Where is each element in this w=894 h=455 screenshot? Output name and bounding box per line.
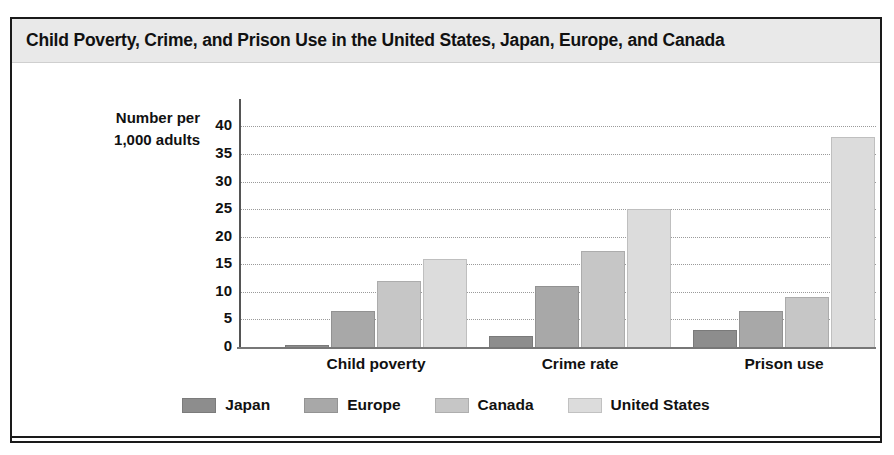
legend-label: United States bbox=[611, 396, 710, 414]
bar bbox=[627, 209, 671, 347]
y-axis-line bbox=[239, 99, 241, 347]
legend-label: Japan bbox=[225, 396, 270, 414]
y-axis-tick-label: 30 bbox=[215, 173, 232, 188]
gridline bbox=[241, 126, 876, 127]
legend: JapanEuropeCanadaUnited States bbox=[12, 396, 880, 414]
category-label: Prison use bbox=[744, 355, 823, 373]
bar bbox=[285, 345, 329, 347]
bar bbox=[377, 281, 421, 347]
bar bbox=[693, 330, 737, 347]
legend-swatch bbox=[182, 398, 216, 413]
bar bbox=[785, 297, 829, 347]
bar bbox=[581, 251, 625, 348]
y-axis-tick-label: 35 bbox=[215, 145, 232, 160]
y-axis-tick-label: 25 bbox=[215, 200, 232, 215]
legend-item[interactable]: Canada bbox=[435, 396, 534, 414]
y-axis-tick-label: 20 bbox=[215, 228, 232, 243]
chart-title: Child Poverty, Crime, and Prison Use in … bbox=[26, 30, 725, 51]
y-axis-tick-label: 40 bbox=[215, 118, 232, 133]
bar bbox=[489, 336, 533, 347]
category-label: Crime rate bbox=[542, 355, 619, 373]
plot-area: 4035302520151050 Child povertyCrime rate… bbox=[239, 99, 876, 347]
gridline bbox=[241, 209, 876, 210]
bar bbox=[831, 137, 875, 347]
y-axis-tick-label: 0 bbox=[224, 338, 232, 353]
legend-swatch bbox=[304, 398, 338, 413]
figure-frame: Child Poverty, Crime, and Prison Use in … bbox=[10, 17, 882, 443]
gridline bbox=[241, 264, 876, 265]
legend-item[interactable]: Japan bbox=[182, 396, 270, 414]
bottom-divider bbox=[12, 436, 880, 438]
bar bbox=[739, 311, 783, 347]
title-band: Child Poverty, Crime, and Prison Use in … bbox=[12, 19, 880, 63]
x-axis-line bbox=[237, 347, 876, 349]
legend-label: Canada bbox=[478, 396, 534, 414]
gridline bbox=[241, 182, 876, 183]
y-axis-title: Number per 1,000 adults bbox=[50, 107, 200, 151]
y-axis-title-line1: Number per bbox=[50, 107, 200, 129]
y-axis-title-line2: 1,000 adults bbox=[50, 129, 200, 151]
y-axis-tick-label: 5 bbox=[224, 311, 232, 326]
legend-swatch bbox=[568, 398, 602, 413]
legend-item[interactable]: United States bbox=[568, 396, 710, 414]
y-axis-tick-label: 10 bbox=[215, 283, 232, 298]
y-axis-tick-label: 15 bbox=[215, 256, 232, 271]
gridline bbox=[241, 154, 876, 155]
bar bbox=[535, 286, 579, 347]
bar bbox=[423, 259, 467, 347]
bar bbox=[331, 311, 375, 347]
gridline bbox=[241, 237, 876, 238]
legend-item[interactable]: Europe bbox=[304, 396, 400, 414]
category-label: Child poverty bbox=[326, 355, 425, 373]
legend-swatch bbox=[435, 398, 469, 413]
legend-label: Europe bbox=[347, 396, 400, 414]
